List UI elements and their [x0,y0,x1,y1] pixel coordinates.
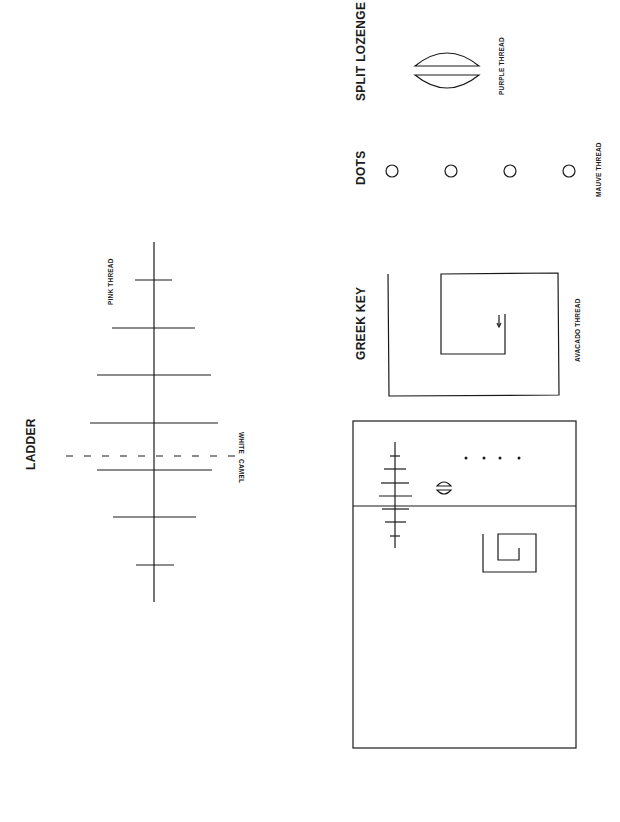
mini-dots [465,457,521,460]
mauve-thread-label: MAUVE THREAD [595,142,602,197]
white-label: WHITE [238,432,245,454]
pink-thread-label: PINK THREAD [107,258,114,305]
arrow-icon [497,315,501,327]
dots-title: DOTS [354,150,368,185]
mini-greek-key [483,534,536,572]
summary-box [353,421,576,748]
greek-key-shape [388,273,559,396]
mini-lozenge [437,482,451,494]
greek-key-title: GREEK KEY [354,287,368,360]
dot-circles [386,165,575,177]
split-lozenge-shape [415,53,479,88]
mini-ladder [379,442,412,548]
ladder-title: LADDER [24,418,38,470]
camel-label: CAMEL [238,459,245,483]
split-lozenge-title: SPLIT LOZENGE [354,2,368,101]
embroidery-diagram [0,0,620,822]
purple-thread-label: PURPLE THREAD [498,37,505,95]
avacado-thread-label: AVACADO THREAD [574,298,581,362]
